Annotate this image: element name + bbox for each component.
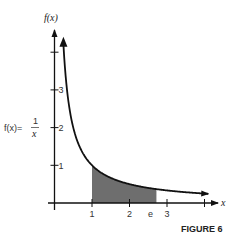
function-label-denominator: x bbox=[31, 128, 37, 139]
figure-title: FIGURE 6 bbox=[181, 224, 223, 234]
y-ticks: 123 bbox=[51, 52, 64, 171]
annotation-e: e bbox=[148, 209, 153, 219]
curve-top-arrow-icon bbox=[59, 37, 67, 47]
y-tick-label: 3 bbox=[59, 85, 64, 95]
y-tick-label: 1 bbox=[59, 161, 64, 171]
y-axis-label: f(x) bbox=[44, 12, 59, 24]
y-tick-label: 2 bbox=[59, 123, 64, 133]
function-label-lhs: f(x)= bbox=[4, 123, 22, 133]
x-tick-label: 2 bbox=[127, 209, 132, 219]
figure-6-chart: 123 123 f(x) x f(x)= 1 x e FIGURE 6 bbox=[0, 0, 230, 239]
shaded-area-1-to-e bbox=[92, 165, 156, 203]
curve-one-over-x bbox=[63, 45, 208, 194]
x-axis-label: x bbox=[220, 197, 226, 208]
x-tick-label: 1 bbox=[90, 209, 95, 219]
function-label-numerator: 1 bbox=[33, 116, 38, 126]
x-tick-label: 3 bbox=[165, 209, 170, 219]
